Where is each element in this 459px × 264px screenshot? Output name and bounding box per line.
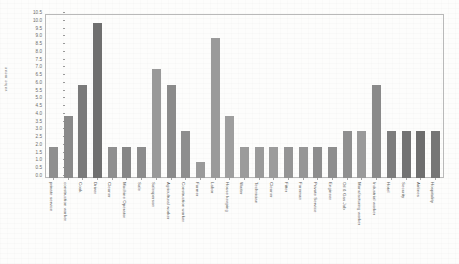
x-tick: Security [402,180,411,260]
x-tick: Driver [93,180,102,260]
bar [240,147,249,178]
x-tick: Cleaner [269,180,278,260]
x-tick-mark [259,178,260,180]
x-tick: construction worker [64,180,73,260]
y-tick-label: 0.0 [20,172,42,179]
x-tick-label: Cleaner [269,182,274,198]
y-tick-label: 8.0 [20,48,42,55]
x-tick: Fitter [284,180,293,260]
x-tick-label: Oil & Gas Job [342,182,347,210]
x-tick: Sale [137,180,146,260]
x-tick-mark [82,178,83,180]
x-tick-label: Engineer [328,182,333,200]
x-tick-label: Labor [210,182,215,194]
x-tick-mark [68,178,69,180]
bar [357,131,366,178]
x-tick-mark [361,178,362,180]
bar [299,147,308,178]
x-tick-label: Farmer [195,182,200,196]
x-tick-label: Security [401,182,406,198]
y-tick-label: 4.5 [20,102,42,109]
x-tick-mark [406,178,407,180]
y-tick-label: 2.0 [20,141,42,148]
y-tick-label: 3.0 [20,125,42,132]
y-tick-label: 7.5 [20,56,42,63]
x-tick: Manufacturing worker [357,180,366,260]
x-tick: Hotel [387,180,396,260]
y-tick-label: 10.0 [20,17,42,24]
x-tick-label: Machine Operator [122,182,127,218]
x-tick-label: Hospitality [430,182,435,203]
x-tick-mark [288,178,289,180]
x-tick-label: Fitter [284,182,289,192]
x-tick-mark [391,178,392,180]
x-tick-mark [156,178,157,180]
x-tick: Airlines [416,180,425,260]
x-tick-mark [347,178,348,180]
y-tick-label: 5.5 [20,87,42,94]
x-tick: Construction worker [181,180,190,260]
y-tick-label: 7.0 [20,63,42,70]
x-tick-mark [420,178,421,180]
x-tick-label: Driver [93,182,98,194]
bar [372,85,381,178]
bar [49,147,58,178]
x-tick-label: Manufacturing worker [357,182,362,225]
y-tick-label: 10.5 [20,9,42,16]
y-tick-label: 4.0 [20,110,42,117]
x-tick-label: Construction worker [181,182,186,222]
y-tick-label: 6.0 [20,79,42,86]
x-tick-mark [435,178,436,180]
x-tick: Farmer [196,180,205,260]
x-tick-mark [244,178,245,180]
bar [255,147,264,178]
x-tick-label: private service [49,182,54,211]
x-tick-label: Technician [254,182,259,203]
x-tick-label: Agricultural worker [166,182,171,219]
bar [152,69,161,178]
x-tick-mark [332,178,333,180]
bar [387,131,396,178]
bar [108,147,117,178]
bar [196,162,205,178]
x-tick-mark [229,178,230,180]
x-tick: private service [49,180,58,260]
y-tick-label: 1.0 [20,156,42,163]
x-tick: Engineer [328,180,337,260]
x-tick-mark [171,178,172,180]
x-tick-label: Hotel [386,182,391,193]
y-tick-label: 9.0 [20,32,42,39]
x-tick: Industrial worker [372,180,381,260]
y-tick-label: 0.5 [20,164,42,171]
x-axis-tick-labels: private serviceconstruction workerCookDr… [46,180,443,260]
bar [181,131,190,178]
bar [93,23,102,178]
x-tick-mark [303,178,304,180]
x-tick: Oil & Gas Job [343,180,352,260]
x-tick-mark [126,178,127,180]
x-tick-label: Private Service [313,182,318,212]
x-tick: Labor [211,180,220,260]
x-tick-label: Foreman [298,182,303,200]
y-axis-title: value mean [3,48,13,110]
x-tick-label: Cook [78,182,83,192]
x-tick-label: House keeping [225,182,230,212]
x-tick-label: Industrial worker [372,182,377,215]
x-tick-mark [317,178,318,180]
x-tick: Salesperson [152,180,161,260]
x-tick-mark [376,178,377,180]
bar [78,85,87,178]
x-tick: Technician [255,180,264,260]
bar [328,147,337,178]
x-tick-mark [141,178,142,180]
y-tick-label: 9.5 [20,25,42,32]
x-tick-label: Waiter [239,182,244,195]
bar [431,131,440,178]
x-tick: Foreman [299,180,308,260]
x-tick-mark [200,178,201,180]
bar [343,131,352,178]
x-tick: Private Service [313,180,322,260]
bar [64,116,73,178]
x-tick: Agricultural worker [167,180,176,260]
x-tick-mark [273,178,274,180]
